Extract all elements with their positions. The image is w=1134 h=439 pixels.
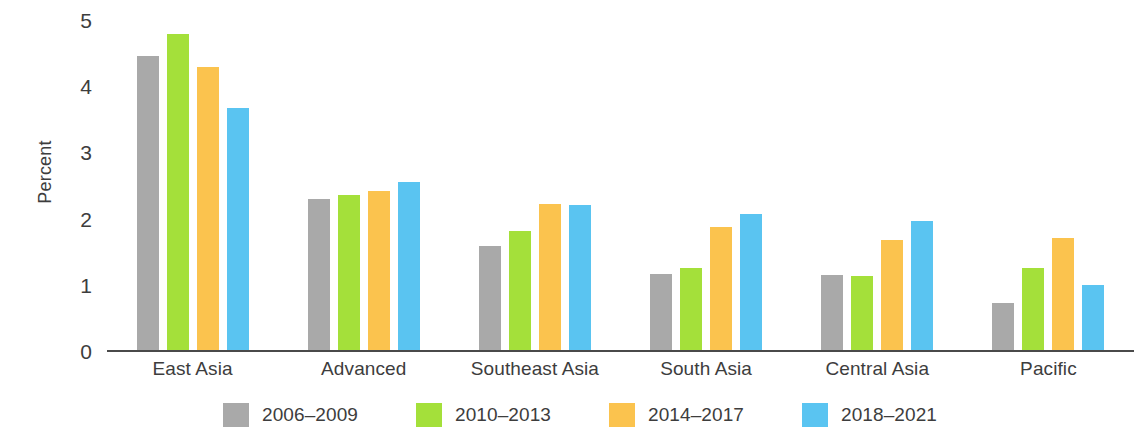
x-axis-label-central-asia: Central Asia (792, 358, 963, 388)
bar-advanced-2014–2017[interactable] (368, 191, 390, 351)
bar-southeast-asia-2006–2009[interactable] (479, 246, 501, 351)
legend-item-2014–2017[interactable]: 2014–2017 (609, 403, 744, 427)
legend-label: 2018–2021 (841, 404, 937, 426)
bar-central-asia-2018–2021[interactable] (911, 221, 933, 351)
bar-central-asia-2006–2009[interactable] (821, 275, 843, 351)
legend-swatch-icon (416, 403, 442, 427)
bar-south-asia-2010–2013[interactable] (680, 268, 702, 351)
x-axis-label-pacific: Pacific (963, 358, 1134, 388)
legend-swatch-icon (609, 403, 635, 427)
legend-item-2010–2013[interactable]: 2010–2013 (416, 403, 551, 427)
plot-area (107, 20, 1134, 351)
y-axis-tick-5: 5 (46, 10, 92, 31)
bar-southeast-asia-2014–2017[interactable] (539, 204, 561, 351)
y-axis-tick-0: 0 (46, 341, 92, 362)
legend-label: 2014–2017 (648, 404, 744, 426)
legend-label: 2010–2013 (455, 404, 551, 426)
bar-east-asia-2006–2009[interactable] (137, 56, 159, 351)
bar-south-asia-2014–2017[interactable] (710, 227, 732, 351)
bar-southeast-asia-2010–2013[interactable] (509, 231, 531, 351)
x-axis-line (107, 350, 1134, 352)
bar-east-asia-2014–2017[interactable] (197, 67, 219, 351)
x-axis-label-southeast-asia: Southeast Asia (449, 358, 620, 388)
x-axis-label-south-asia: South Asia (621, 358, 792, 388)
legend-swatch-icon (223, 403, 249, 427)
bar-chart: Percent 543210 East AsiaAdvancedSoutheas… (0, 0, 1134, 439)
bar-pacific-2014–2017[interactable] (1052, 238, 1074, 351)
x-axis-label-advanced: Advanced (278, 358, 449, 388)
y-axis-tick-3: 3 (46, 142, 92, 163)
legend-swatch-icon (802, 403, 828, 427)
legend-item-2018–2021[interactable]: 2018–2021 (802, 403, 937, 427)
y-axis-tick-2: 2 (46, 208, 92, 229)
bar-advanced-2006–2009[interactable] (308, 199, 330, 351)
bar-group (278, 20, 449, 351)
bar-pacific-2010–2013[interactable] (1022, 268, 1044, 351)
bar-group (621, 20, 792, 351)
chart-legend: 2006–20092010–20132014–20172018–2021 (0, 400, 1134, 430)
bar-advanced-2010–2013[interactable] (338, 195, 360, 351)
x-axis-label-east-asia: East Asia (107, 358, 278, 388)
bar-central-asia-2010–2013[interactable] (851, 276, 873, 351)
bar-advanced-2018–2021[interactable] (398, 182, 420, 351)
bar-group (792, 20, 963, 351)
bar-southeast-asia-2018–2021[interactable] (569, 205, 591, 351)
bar-south-asia-2018–2021[interactable] (740, 214, 762, 351)
bar-pacific-2018–2021[interactable] (1082, 285, 1104, 351)
y-axis-tick-1: 1 (46, 274, 92, 295)
bar-east-asia-2018–2021[interactable] (227, 108, 249, 351)
bar-group (963, 20, 1134, 351)
legend-label: 2006–2009 (262, 404, 358, 426)
x-axis-category-labels: East AsiaAdvancedSoutheast AsiaSouth Asi… (107, 358, 1134, 388)
bar-group (449, 20, 620, 351)
y-axis-tick-labels: 543210 (20, 0, 92, 439)
y-axis-tick-4: 4 (46, 76, 92, 97)
bar-south-asia-2006–2009[interactable] (650, 274, 672, 351)
bar-east-asia-2010–2013[interactable] (167, 34, 189, 351)
bar-group (107, 20, 278, 351)
bar-pacific-2006–2009[interactable] (992, 303, 1014, 351)
legend-item-2006–2009[interactable]: 2006–2009 (223, 403, 358, 427)
bar-central-asia-2014–2017[interactable] (881, 240, 903, 351)
